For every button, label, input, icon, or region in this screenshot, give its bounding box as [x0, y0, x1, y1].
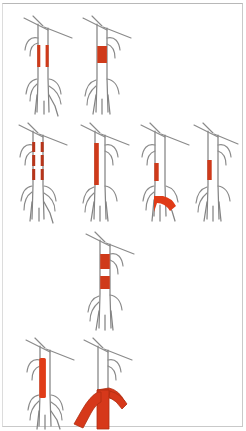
lesion-e1 — [154, 163, 158, 181]
panel-i[interactable] — [74, 338, 132, 429]
panel-g[interactable] — [86, 232, 134, 330]
lesion-c3 — [32, 155, 35, 166]
lesion-c4 — [41, 155, 44, 166]
lesion-f1 — [207, 160, 211, 180]
vessel-diagram-svg — [0, 0, 246, 431]
figure-frame: Aortic vessel schematic panel — [0, 0, 246, 431]
panel-c[interactable] — [19, 123, 67, 223]
panel-b[interactable] — [83, 16, 131, 114]
lesion-d1 — [94, 143, 99, 185]
lesion-e2 — [154, 196, 176, 212]
lesion-c1 — [32, 142, 35, 152]
lesion-b1 — [97, 46, 107, 63]
lesion-a1 — [37, 45, 40, 67]
panel-e[interactable] — [141, 123, 189, 221]
figure-panel: Aortic vessel schematic panel — [0, 0, 246, 431]
lesion-a2 — [46, 45, 49, 67]
lesion-c2 — [41, 142, 44, 152]
lesion-g1 — [100, 254, 110, 269]
lesion-c5 — [32, 169, 35, 180]
panel-h[interactable] — [26, 338, 74, 429]
panel-d[interactable] — [81, 123, 129, 221]
lesion-g2 — [100, 276, 110, 289]
lesion-c6 — [41, 169, 44, 180]
panel-f[interactable] — [194, 123, 238, 221]
lesion-h1 — [39, 358, 46, 398]
panel-a[interactable] — [24, 16, 72, 116]
